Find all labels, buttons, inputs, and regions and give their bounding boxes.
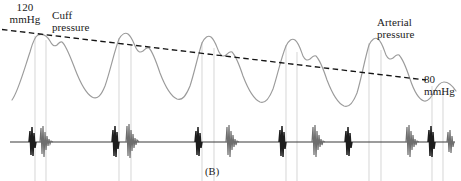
spike-pair (29, 126, 53, 157)
spike-pair (279, 125, 325, 157)
arterial-pressure-label: Arterial pressure (377, 17, 414, 40)
panel-label: (B) (205, 166, 219, 178)
figure-panel-b: 120 mmHg Cuff pressure Arterial pressure… (0, 0, 461, 181)
spike-pair (112, 124, 139, 158)
diastolic-pressure-label: 80 mmHg (424, 74, 455, 97)
cuff-pressure-label: Cuff pressure (52, 10, 89, 33)
spike-pair (195, 125, 239, 157)
spike-pair (345, 125, 419, 157)
systolic-pressure-label: 120 mmHg (4, 2, 46, 25)
